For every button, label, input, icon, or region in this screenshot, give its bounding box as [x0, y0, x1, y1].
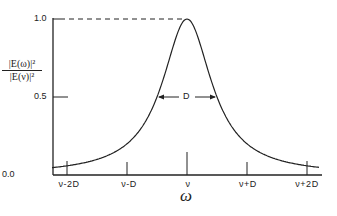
fwhm-label: D [183, 91, 190, 101]
x-tick-label: ν+D [239, 179, 257, 189]
x-tick-label: ν-2D [58, 179, 79, 189]
x-tick-label: ν-D [121, 179, 137, 189]
y-tick-label-1.0: 1.0 [34, 13, 47, 23]
y-tick-label-0.0: 0.0 [2, 169, 15, 179]
chart-plot [0, 0, 337, 216]
y-axis-label: |E(ω)|² |E(ν)|² [2, 58, 42, 83]
x-tick-label: ν+2D [295, 179, 318, 189]
x-axis-title: ω [180, 186, 192, 206]
y-tick-label-0.5: 0.5 [34, 91, 47, 101]
